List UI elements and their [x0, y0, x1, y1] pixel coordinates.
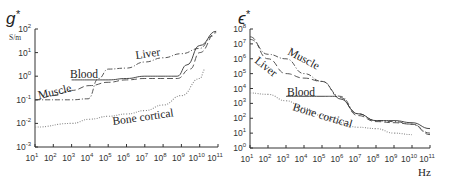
y-tick-label: 10-2: [16, 117, 31, 128]
y-tick-label: 108: [233, 23, 246, 34]
y-tick-label: 106: [233, 53, 246, 64]
x-tick-label: 108: [367, 153, 380, 164]
x-tick-label: 102: [44, 152, 57, 163]
conductivity-unit: S/m: [9, 33, 21, 42]
x-tick-label: 1011: [207, 152, 223, 163]
y-tick-label: 103: [233, 97, 246, 108]
conductivity-chart: g* S/m 10210110010-110-210-3 10110210310…: [6, 8, 224, 163]
label-blood: Blood: [70, 68, 98, 80]
y-tick-label: 10-1: [16, 94, 31, 105]
x-tick-label: 106: [117, 152, 130, 163]
x-tick-label: 109: [385, 153, 398, 164]
permittivity-chart: ϵ* 108107106105104103102101100 101102103…: [233, 8, 435, 178]
x-tick-label: 104: [295, 153, 308, 164]
label-blood: Blood: [287, 86, 315, 98]
x-tick-label: 103: [277, 153, 290, 164]
x-tick-label: 105: [313, 153, 326, 164]
x-tick-label: 103: [62, 152, 75, 163]
y-tick-label: 101: [233, 127, 246, 138]
y-tick-label: 100: [18, 70, 31, 81]
x-tick-label: 106: [331, 153, 344, 164]
tissue-dielectric-charts: g* S/m 10210110010-110-210-3 10110210310…: [0, 0, 455, 186]
x-tick-label: 101: [26, 152, 39, 163]
y-tick-label: 107: [233, 38, 246, 49]
x-axis-label: Hz: [418, 166, 431, 178]
y-tick-label: 105: [233, 68, 246, 79]
x-tick-label: 1010: [189, 152, 206, 163]
y-tick-label: 102: [233, 112, 246, 123]
label-bone-cortical: Bone cortical: [112, 107, 175, 127]
x-tick-label: 1010: [401, 153, 418, 164]
axes: [250, 29, 430, 148]
label-muscle: Muscle: [286, 45, 322, 71]
x-tick-label: 105: [99, 152, 112, 163]
x-tick-label: 107: [349, 153, 362, 164]
y-tick-label: 104: [233, 83, 246, 94]
y-tick-label: 102: [18, 23, 31, 34]
x-tick-label: 102: [259, 153, 272, 164]
x-tick-label: 104: [80, 152, 93, 163]
x-tick-label: 107: [135, 152, 148, 163]
label-bone-cortical: Bone cortical: [291, 100, 353, 129]
x-tick-label: 108: [154, 152, 167, 163]
y-tick-label: 100: [233, 142, 246, 153]
y-tick-label: 101: [18, 47, 31, 58]
x-tick-label: 109: [172, 152, 185, 163]
x-tick-label: 101: [241, 153, 254, 164]
x-tick-label: 1011: [419, 153, 435, 164]
label-muscle: Muscle: [37, 82, 73, 101]
label-liver: Liver: [253, 54, 280, 79]
y-tick-label: 10-3: [16, 141, 31, 152]
